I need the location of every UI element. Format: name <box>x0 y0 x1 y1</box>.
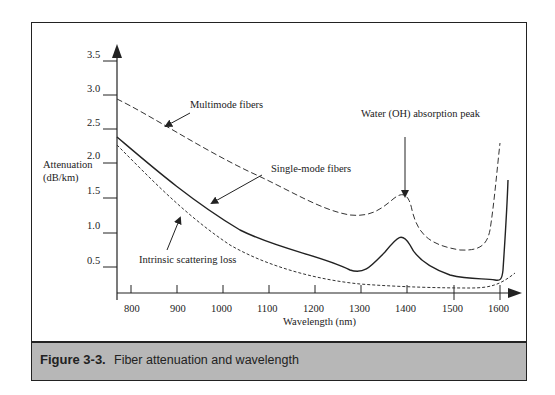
attenuation-chart: 3.5 3.0 2.5 2.0 1.5 1.0 0.5 Attenuation … <box>0 0 555 395</box>
x-axis-arrow-icon <box>508 288 522 298</box>
svg-text:1300: 1300 <box>349 303 370 314</box>
caption-text: Fiber attenuation and wavelength <box>114 353 299 367</box>
svg-text:Attenuation: Attenuation <box>43 159 93 170</box>
x-axis <box>117 285 522 300</box>
x-tick-labels: 800 900 1000 1100 1200 1300 1400 1500 16… <box>124 303 509 314</box>
svg-text:1200: 1200 <box>303 303 324 314</box>
svg-text:1.0: 1.0 <box>87 220 100 231</box>
figure-caption: Figure 3-3. Fiber attenuation and wavele… <box>31 341 527 381</box>
svg-text:800: 800 <box>124 303 140 314</box>
svg-text:1400: 1400 <box>395 303 416 314</box>
svg-text:3.0: 3.0 <box>87 83 100 94</box>
svg-text:Multimode fibers: Multimode fibers <box>190 99 263 110</box>
svg-text:(dB/km): (dB/km) <box>43 172 79 184</box>
svg-text:1100: 1100 <box>257 303 278 314</box>
svg-text:Single-mode fibers: Single-mode fibers <box>271 163 351 174</box>
arrow-icon <box>167 218 180 250</box>
svg-text:1600: 1600 <box>488 303 509 314</box>
y-axis <box>103 44 122 300</box>
svg-text:3.5: 3.5 <box>87 49 100 60</box>
svg-text:0.5: 0.5 <box>87 255 100 266</box>
svg-text:Water (OH) absorption peak: Water (OH) absorption peak <box>361 108 481 120</box>
y-axis-label: Attenuation (dB/km) <box>43 159 93 184</box>
arrow-icon <box>212 175 262 203</box>
svg-text:900: 900 <box>170 303 186 314</box>
multimode-annotation: Multimode fibers <box>166 99 263 126</box>
scattering-annotation: Intrinsic scattering loss <box>139 218 236 265</box>
svg-text:2.5: 2.5 <box>87 117 100 128</box>
single-mode-annotation: Single-mode fibers <box>212 163 351 203</box>
svg-text:1.5: 1.5 <box>87 185 100 196</box>
svg-text:Intrinsic scattering loss: Intrinsic scattering loss <box>139 254 236 265</box>
water-peak-annotation: Water (OH) absorption peak <box>361 108 481 196</box>
y-axis-arrow-icon <box>112 44 122 58</box>
svg-text:1500: 1500 <box>442 303 463 314</box>
svg-text:1000: 1000 <box>211 303 232 314</box>
arrow-icon <box>166 113 190 126</box>
y-tick-labels: 3.5 3.0 2.5 2.0 1.5 1.0 0.5 <box>87 49 100 266</box>
x-axis-label: Wavelength (nm) <box>283 316 356 328</box>
figure-number: Figure 3-3. <box>40 352 106 367</box>
